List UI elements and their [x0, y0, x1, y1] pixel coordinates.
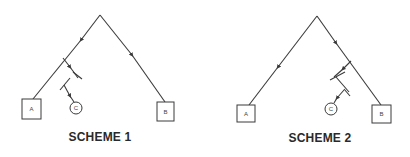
scheme-2-node-a: A — [237, 105, 255, 122]
node-c-label: C — [329, 106, 334, 112]
node-b-label: B — [379, 111, 383, 117]
node-c-label: C — [74, 105, 79, 111]
scheme-1-title: SCHEME 1 — [69, 130, 132, 144]
scheme-2: A B C SCHEME 2 — [237, 16, 391, 145]
scheme-1-node-c: C — [70, 102, 82, 114]
scheme-2-node-b: B — [372, 105, 391, 123]
scheme-1-node-a: A — [22, 99, 41, 119]
node-a-label: A — [244, 111, 248, 117]
node-a-label: A — [29, 106, 33, 112]
scheme-1-arm-to-b — [100, 15, 165, 102]
scheme-2-node-c: C — [325, 103, 337, 115]
scheme-1-branch-to-c — [60, 58, 82, 102]
scheme-2-arm-to-a — [249, 16, 317, 105]
schemes-diagram: A B C SCHEME 1 — [0, 0, 410, 157]
scheme-1: A B C SCHEME 1 — [22, 15, 174, 144]
scheme-1-arm-to-a — [33, 15, 100, 99]
node-b-label: B — [163, 109, 167, 115]
scheme-2-title: SCHEME 2 — [289, 131, 352, 145]
scheme-2-branch-to-c — [330, 61, 351, 103]
scheme-1-node-b: B — [157, 102, 174, 121]
